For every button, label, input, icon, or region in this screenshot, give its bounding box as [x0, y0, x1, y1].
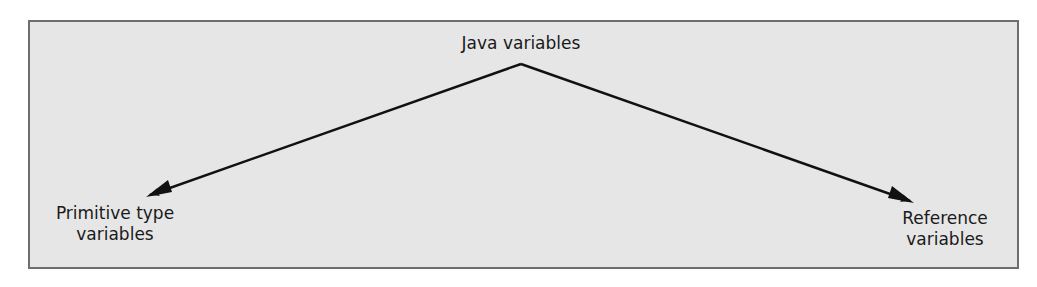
primitive-label-line2: variables [40, 224, 190, 245]
arrowhead-right-icon [888, 186, 914, 203]
arrowhead-left-icon [146, 180, 172, 197]
root-label-text: Java variables [462, 33, 581, 53]
reference-label-line2: variables [880, 229, 1010, 250]
reference-label-line1: Reference [880, 208, 1010, 229]
primitive-node-label: Primitive type variables [40, 203, 190, 245]
reference-node-label: Reference variables [880, 208, 1010, 250]
primitive-label-line1: Primitive type [40, 203, 190, 224]
root-node-label: Java variables [446, 33, 596, 54]
